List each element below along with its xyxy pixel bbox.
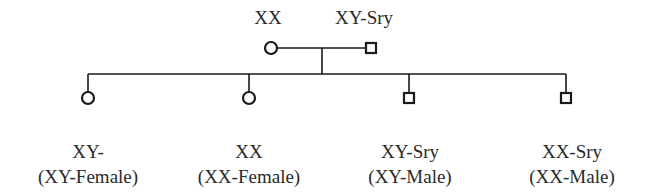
child-1-phenotype: (XY-Female): [38, 165, 138, 189]
child-3-phenotype: (XY-Male): [368, 165, 451, 189]
child-4-square-icon: [561, 93, 571, 103]
child-1-circle-icon: [82, 92, 94, 104]
father-square-icon: [366, 43, 376, 53]
child-2-genotype: XX: [235, 140, 262, 164]
child-3-square-icon: [404, 93, 414, 103]
child-1-genotype: XY-: [72, 140, 104, 164]
child-4-phenotype: (XX-Male): [529, 165, 614, 189]
father-label: XY-Sry: [335, 6, 393, 30]
child-2-circle-icon: [243, 92, 255, 104]
mother-label: XX: [254, 6, 281, 30]
pedigree-diagram: XX XY-Sry XY- (XY-Female) XX (XX-Female)…: [0, 0, 647, 195]
child-2-phenotype: (XX-Female): [198, 165, 300, 189]
child-3-genotype: XY-Sry: [381, 140, 439, 164]
child-4-genotype: XX-Sry: [542, 140, 602, 164]
mother-circle-icon: [265, 42, 277, 54]
